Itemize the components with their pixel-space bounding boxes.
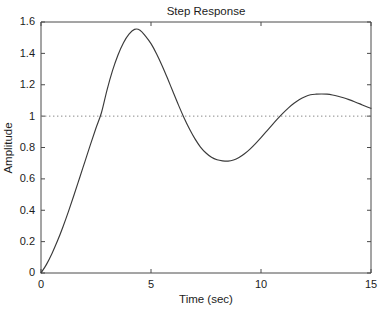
y-tick-label: 1.6 bbox=[20, 15, 35, 27]
y-tick-label: 0.6 bbox=[20, 172, 35, 184]
x-tick-label: 10 bbox=[255, 278, 267, 290]
x-tick-label: 5 bbox=[148, 278, 154, 290]
figure-canvas: Step Response 00.20.40.60.811.21.41.6 05… bbox=[0, 0, 382, 310]
x-tick-label: 0 bbox=[38, 278, 44, 290]
y-tick-label: 1 bbox=[29, 110, 35, 122]
y-tick-label: 0.2 bbox=[20, 235, 35, 247]
y-tick-label: 1.4 bbox=[20, 47, 35, 59]
x-tick-label: 15 bbox=[365, 278, 377, 290]
y-tick-label: 0.4 bbox=[20, 204, 35, 216]
y-tick-label: 1.2 bbox=[20, 78, 35, 90]
step-response-chart: Step Response 00.20.40.60.811.21.41.6 05… bbox=[0, 0, 382, 310]
y-tick-label: 0.8 bbox=[20, 141, 35, 153]
x-axis-label: Time (sec) bbox=[179, 293, 233, 305]
chart-title: Step Response bbox=[167, 5, 246, 17]
y-axis-label: Amplitude bbox=[2, 122, 14, 173]
y-tick-label: 0 bbox=[29, 266, 35, 278]
chart-background bbox=[0, 0, 382, 310]
